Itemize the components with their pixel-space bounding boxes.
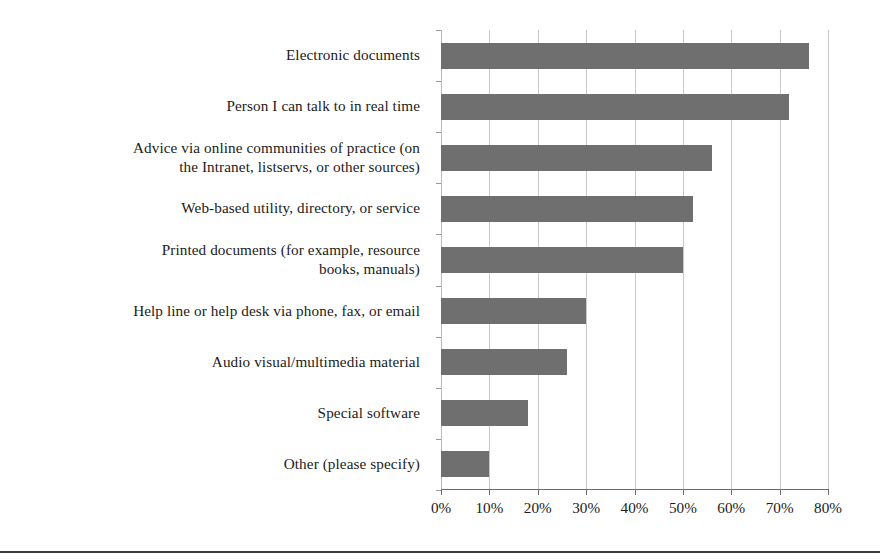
x-axis-tick: [731, 490, 732, 495]
y-axis-tick: [436, 388, 441, 389]
bar: [441, 349, 567, 375]
bar: [441, 145, 712, 171]
category-label-line: books, manuals): [0, 259, 420, 278]
bar: [441, 94, 789, 120]
bottom-divider-rule: [0, 551, 880, 553]
category-label-line: Person I can talk to in real time: [0, 96, 420, 115]
y-axis-tick: [436, 286, 441, 287]
y-axis-tick: [436, 337, 441, 338]
category-label: Other (please specify): [0, 454, 420, 473]
category-label: Help line or help desk via phone, fax, o…: [0, 301, 420, 320]
bar-chart: Electronic documentsPerson I can talk to…: [0, 0, 880, 560]
plot-area: [441, 30, 828, 490]
category-label-line: Audio visual/multimedia material: [0, 352, 420, 371]
category-label-line: Electronic documents: [0, 45, 420, 64]
x-axis-tick-label: 20%: [524, 498, 552, 518]
category-label-line: Printed documents (for example, resource: [0, 240, 420, 259]
category-label-line: Special software: [0, 403, 420, 422]
category-label: Person I can talk to in real time: [0, 96, 420, 115]
bar: [441, 247, 683, 273]
x-axis-tick: [489, 490, 490, 495]
x-axis-tick: [586, 490, 587, 495]
category-axis-labels: Electronic documentsPerson I can talk to…: [0, 30, 430, 490]
x-axis-tick: [538, 490, 539, 495]
x-axis-tick: [683, 490, 684, 495]
category-label: Web-based utility, directory, or service: [0, 198, 420, 217]
y-axis-tick: [436, 490, 441, 491]
y-axis-tick: [436, 439, 441, 440]
bar-series: [441, 30, 828, 490]
bar: [441, 43, 809, 69]
y-axis-tick: [436, 234, 441, 235]
category-label: Special software: [0, 403, 420, 422]
category-label-line: Web-based utility, directory, or service: [0, 198, 420, 217]
category-label: Electronic documents: [0, 45, 420, 64]
x-axis-tick: [635, 490, 636, 495]
x-axis-tick-label: 0%: [431, 498, 451, 518]
x-axis-tick-label: 50%: [669, 498, 697, 518]
category-label-line: Other (please specify): [0, 454, 420, 473]
category-label-line: Advice via online communities of practic…: [0, 138, 420, 157]
bar: [441, 400, 528, 426]
category-label: Printed documents (for example, resource…: [0, 240, 420, 278]
x-axis-tick-label: 40%: [621, 498, 649, 518]
x-axis-tick-label: 70%: [766, 498, 794, 518]
bar: [441, 196, 693, 222]
x-axis-tick: [780, 490, 781, 495]
y-axis-tick: [436, 132, 441, 133]
bar: [441, 298, 586, 324]
y-axis-tick: [436, 81, 441, 82]
x-axis-tick-label: 60%: [717, 498, 745, 518]
bar: [441, 451, 489, 477]
category-label: Advice via online communities of practic…: [0, 138, 420, 176]
x-axis-tick: [441, 490, 442, 495]
x-axis-tick: [828, 490, 829, 495]
gridline: [828, 30, 829, 490]
category-label: Audio visual/multimedia material: [0, 352, 420, 371]
category-label-line: Help line or help desk via phone, fax, o…: [0, 301, 420, 320]
x-axis-tick-label: 80%: [814, 498, 842, 518]
x-axis-tick-label: 30%: [572, 498, 600, 518]
y-axis-tick: [436, 183, 441, 184]
y-axis-tick: [436, 30, 441, 31]
category-label-line: the Intranet, listservs, or other source…: [0, 157, 420, 176]
x-axis-tick-label: 10%: [475, 498, 503, 518]
x-axis-tick-labels: 0%10%20%30%40%50%60%70%80%: [0, 498, 880, 524]
